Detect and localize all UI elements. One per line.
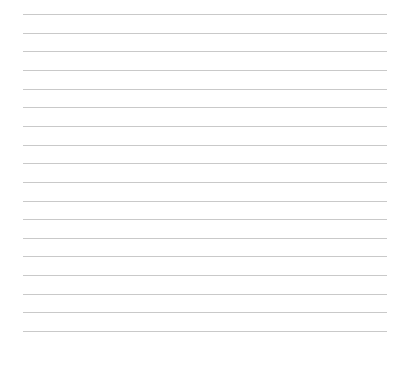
ruled-line	[23, 89, 387, 90]
lined-paper-page	[0, 0, 407, 372]
ruled-line	[23, 331, 387, 332]
ruled-line	[23, 312, 387, 313]
ruled-line	[23, 256, 387, 257]
ruled-line	[23, 70, 387, 71]
ruled-line	[23, 33, 387, 34]
ruled-line	[23, 163, 387, 164]
ruled-line	[23, 201, 387, 202]
ruled-line	[23, 182, 387, 183]
ruled-line	[23, 14, 387, 15]
ruled-line	[23, 219, 387, 220]
ruled-line	[23, 107, 387, 108]
ruled-line	[23, 294, 387, 295]
ruled-line	[23, 145, 387, 146]
ruled-line	[23, 51, 387, 52]
ruled-line	[23, 275, 387, 276]
ruled-line	[23, 126, 387, 127]
ruled-line	[23, 238, 387, 239]
